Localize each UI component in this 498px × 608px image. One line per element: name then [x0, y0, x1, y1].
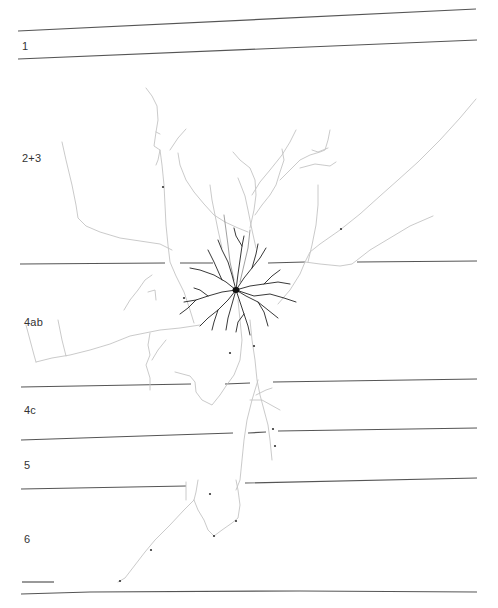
layer-label-6: 6: [24, 533, 30, 545]
layer-boundaries: [18, 9, 477, 594]
soma: [233, 287, 240, 293]
layer-label-4c: 4c: [24, 404, 36, 416]
layer-label-5: 5: [24, 459, 30, 471]
boundary-1-23: [18, 40, 477, 59]
boundary-4c-5: [21, 428, 477, 440]
boundary-5-6: [21, 478, 477, 489]
neuron-figure: 1 2+3 4ab 4c 5 6: [0, 0, 498, 608]
layer-label-2-3: 2+3: [22, 152, 41, 164]
boundary-4ab-4c: [21, 379, 477, 387]
dendrite-arbor: [180, 215, 296, 335]
layer-label-1: 1: [22, 40, 28, 52]
layer-label-4ab: 4ab: [24, 316, 43, 328]
boundary-bottom: [21, 591, 477, 594]
boundary-top: [18, 9, 476, 31]
axon-arbor: [26, 88, 476, 582]
boundary-23-4ab: [20, 261, 477, 264]
figure-canvas: [0, 0, 498, 608]
